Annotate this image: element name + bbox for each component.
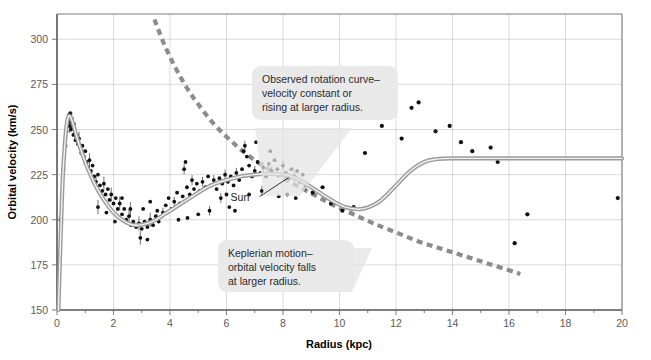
data-point bbox=[113, 220, 117, 224]
data-point bbox=[122, 207, 126, 211]
data-point bbox=[192, 187, 196, 191]
data-point bbox=[112, 202, 116, 206]
data-point bbox=[141, 207, 145, 211]
data-point bbox=[155, 209, 159, 213]
data-point bbox=[225, 193, 229, 197]
data-point bbox=[186, 216, 190, 220]
data-point bbox=[116, 207, 120, 211]
x-tick-label: 6 bbox=[224, 317, 230, 329]
y-tick-label: 250 bbox=[30, 124, 48, 136]
data-point bbox=[175, 191, 179, 195]
sun-label: Sun bbox=[231, 191, 250, 203]
data-point bbox=[98, 184, 102, 188]
data-point bbox=[513, 241, 517, 245]
data-point bbox=[247, 164, 251, 168]
y-tick-label: 300 bbox=[30, 33, 48, 45]
data-point bbox=[400, 136, 404, 140]
data-point bbox=[185, 185, 189, 189]
data-point bbox=[164, 203, 168, 207]
data-point bbox=[102, 182, 106, 186]
data-point bbox=[114, 196, 118, 200]
rotation-curve-figure: 02468101214161820150175200225250275300 O… bbox=[0, 0, 651, 360]
data-point bbox=[181, 194, 185, 198]
keplerian-callout: Keplerian motion– orbital velocity falls… bbox=[218, 240, 372, 292]
data-point bbox=[470, 149, 474, 153]
data-point bbox=[177, 218, 181, 222]
y-tick-label: 150 bbox=[30, 304, 48, 316]
data-point bbox=[233, 209, 237, 213]
data-point bbox=[106, 187, 110, 191]
data-point bbox=[118, 202, 122, 206]
data-point bbox=[240, 167, 244, 171]
keplerian-callout-line-1: Keplerian motion– bbox=[228, 247, 313, 259]
data-point bbox=[146, 238, 150, 242]
data-point bbox=[129, 207, 133, 211]
data-point bbox=[109, 193, 113, 197]
data-point bbox=[417, 100, 421, 104]
data-point bbox=[96, 173, 100, 177]
data-point bbox=[140, 227, 144, 231]
x-tick-label: 10 bbox=[334, 317, 346, 329]
data-point bbox=[223, 173, 227, 177]
y-tick-label: 200 bbox=[30, 214, 48, 226]
data-point bbox=[243, 144, 247, 148]
observed-callout-line-3: rising at larger radius. bbox=[262, 101, 363, 113]
x-tick-label: 12 bbox=[390, 317, 402, 329]
keplerian-callout-line-3: at larger radius. bbox=[228, 275, 301, 287]
x-tick-label: 16 bbox=[503, 317, 515, 329]
data-point bbox=[195, 182, 199, 186]
data-point bbox=[616, 196, 620, 200]
x-tick-label: 14 bbox=[447, 317, 459, 329]
observed-callout-line-1: Observed rotation curve– bbox=[262, 73, 380, 85]
galaxy-rotation-curve-chart: 02468101214161820150175200225250275300 O… bbox=[0, 0, 651, 360]
data-point bbox=[167, 196, 171, 200]
data-point bbox=[120, 196, 124, 200]
data-point bbox=[232, 184, 236, 188]
x-tick-label: 8 bbox=[280, 317, 286, 329]
data-point bbox=[172, 200, 176, 204]
chart-background bbox=[0, 0, 651, 360]
y-tick-label: 225 bbox=[30, 169, 48, 181]
data-point bbox=[256, 160, 260, 164]
keplerian-callout-line-2: orbital velocity falls bbox=[228, 261, 316, 273]
data-point bbox=[91, 164, 95, 168]
data-point bbox=[245, 155, 249, 159]
data-point bbox=[448, 124, 452, 128]
data-point bbox=[190, 178, 194, 182]
y-tick-label: 275 bbox=[30, 78, 48, 90]
x-tick-label: 20 bbox=[616, 317, 628, 329]
x-axis-title: Radius (kpc) bbox=[306, 338, 372, 350]
data-point bbox=[234, 171, 238, 175]
data-point bbox=[489, 145, 493, 149]
data-point bbox=[184, 160, 188, 164]
data-point bbox=[380, 124, 384, 128]
data-point bbox=[104, 193, 108, 197]
x-tick-label: 4 bbox=[167, 317, 173, 329]
data-point bbox=[496, 160, 500, 164]
data-point bbox=[253, 169, 257, 173]
data-point bbox=[212, 178, 216, 182]
x-tick-label: 18 bbox=[560, 317, 572, 329]
data-point bbox=[148, 200, 152, 204]
data-point bbox=[525, 212, 529, 216]
data-point bbox=[340, 209, 344, 213]
data-point bbox=[409, 106, 413, 110]
data-point bbox=[196, 212, 200, 216]
data-point bbox=[120, 212, 124, 216]
data-point bbox=[219, 196, 223, 200]
data-point bbox=[260, 189, 264, 193]
data-point bbox=[227, 205, 231, 209]
x-tick-label: 0 bbox=[54, 317, 60, 329]
data-point bbox=[320, 185, 324, 189]
data-point bbox=[433, 129, 437, 133]
data-point bbox=[206, 175, 210, 179]
data-point bbox=[182, 167, 186, 171]
data-point bbox=[294, 196, 298, 200]
observed-callout-line-2: velocity constant or bbox=[262, 87, 352, 99]
data-point bbox=[208, 209, 212, 213]
data-point bbox=[96, 205, 100, 209]
x-tick-label: 2 bbox=[111, 317, 117, 329]
data-point bbox=[201, 180, 205, 184]
y-tick-label: 175 bbox=[30, 259, 48, 271]
y-axis-title: Orbital velocity (km/s) bbox=[6, 104, 18, 219]
